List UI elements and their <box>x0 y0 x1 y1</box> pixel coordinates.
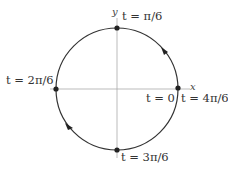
point-right <box>175 85 180 90</box>
label-top: t = π/6 <box>122 9 162 23</box>
label-left: t = 2π/6 <box>6 73 54 87</box>
y-axis-label: y <box>111 6 118 17</box>
label-bottom: t = 3π/6 <box>121 150 169 164</box>
point-bottom <box>114 147 119 152</box>
point-left <box>53 86 58 91</box>
label-right-end: t = 4π/6 <box>181 91 228 105</box>
circle-diagram: y x t = π/6 t = 2π/6 t = 3π/6 t = 0 t = … <box>0 0 228 169</box>
point-top <box>114 25 119 30</box>
arrow-icon-lower-left <box>65 123 73 130</box>
label-right-start: t = 0 <box>146 91 175 105</box>
